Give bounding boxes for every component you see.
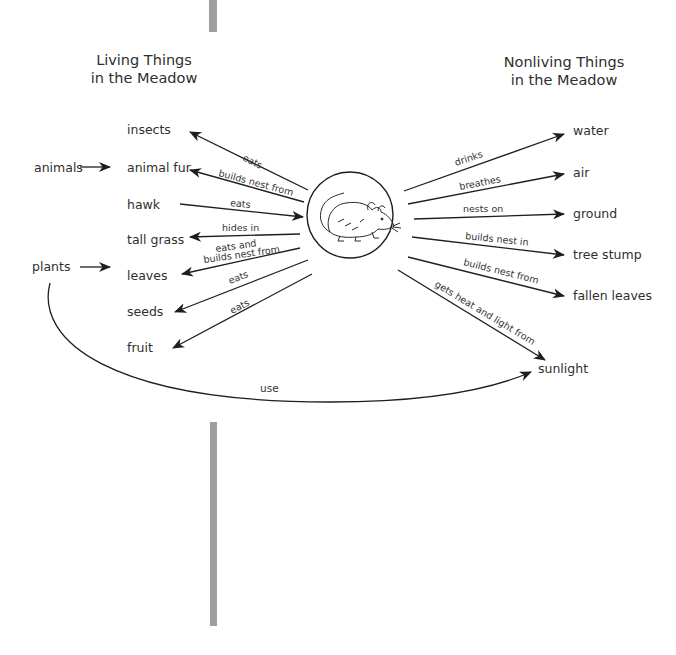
living-item-hawk: hawk: [127, 197, 161, 212]
living-item-tall-grass: tall grass: [127, 232, 184, 247]
relation-drinks: drinks: [453, 148, 484, 168]
category-animals: animals: [34, 160, 110, 175]
relation-use: use: [260, 382, 279, 394]
relation-eats-seeds: eats: [227, 268, 250, 286]
nonliving-item-sunlight: sunlight: [538, 361, 588, 376]
category-plants-label: plants: [32, 259, 70, 274]
relation-breathes: breathes: [458, 173, 501, 192]
gray-divider-bar-bottom: [210, 422, 217, 626]
living-item-insects: insects: [127, 122, 171, 137]
heading-nonliving-line2: in the Meadow: [511, 72, 618, 88]
relation-hides-in: hides in: [222, 222, 259, 233]
heading-living-things: Living Things in the Meadow: [91, 52, 198, 86]
relation-nests-on: nests on: [463, 203, 503, 214]
nonliving-items: water air ground tree stump fallen leave…: [538, 123, 652, 376]
category-plants: plants: [32, 259, 110, 274]
nonliving-relations: drinks breathes nests on builds nest in …: [398, 134, 564, 360]
arrow-nests-on-ground: [414, 214, 564, 219]
living-relations: eats builds nest from eats hides in eats…: [173, 132, 312, 348]
living-item-leaves: leaves: [127, 268, 167, 283]
living-item-fruit: fruit: [127, 340, 153, 355]
nonliving-item-air: air: [573, 165, 590, 180]
nonliving-item-water: water: [573, 123, 609, 138]
relation-eats-insects: eats: [241, 152, 264, 171]
arrow-gets-heat-light-sunlight: [398, 270, 545, 360]
nonliving-item-fallen-leaves: fallen leaves: [573, 288, 652, 303]
heading-living-line2: in the Meadow: [91, 70, 198, 86]
relation-gets-heat-and-light: gets heat and light from: [433, 278, 537, 347]
living-item-seeds: seeds: [127, 304, 163, 319]
nonliving-item-ground: ground: [573, 206, 617, 221]
relation-hawk-eats: eats: [230, 197, 251, 210]
category-animals-label: animals: [34, 160, 83, 175]
living-items: insects animal fur hawk tall grass leave…: [127, 122, 192, 355]
nonliving-item-tree-stump: tree stump: [573, 247, 642, 262]
living-item-animal-fur: animal fur: [127, 160, 192, 175]
relation-builds-nest-from-fallen: builds nest from: [463, 256, 540, 285]
heading-nonliving-things: Nonliving Things in the Meadow: [504, 54, 625, 88]
mouse-node: [307, 172, 401, 258]
mouse-circle: [307, 172, 393, 258]
meadow-food-web-diagram: Living Things in the Meadow Nonliving Th…: [0, 0, 676, 655]
heading-nonliving-line1: Nonliving Things: [504, 54, 625, 70]
heading-living-line1: Living Things: [96, 52, 192, 68]
gray-divider-bar-top: [209, 0, 217, 32]
arrow-hides-in-tall-grass: [190, 234, 300, 237]
relation-builds-nest-from-fur: builds nest from: [217, 167, 294, 198]
